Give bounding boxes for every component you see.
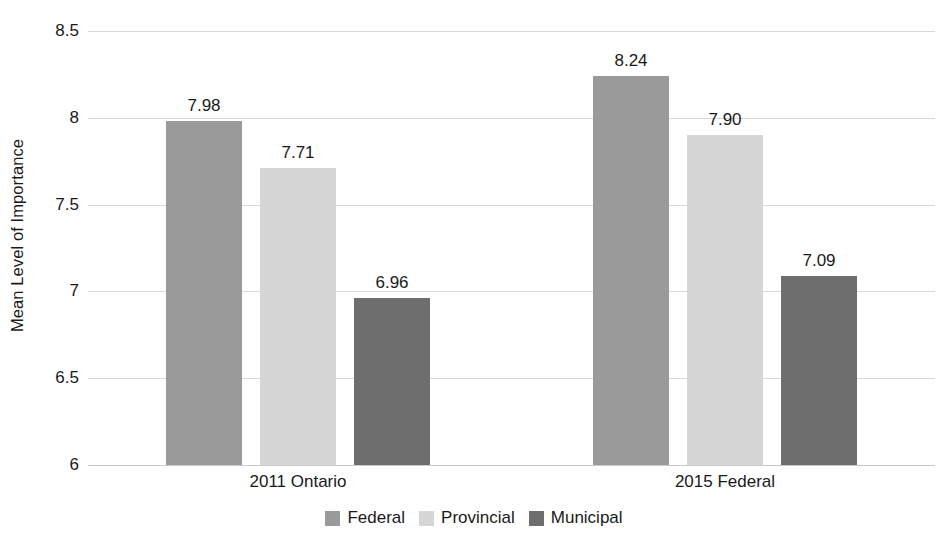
legend-swatch-icon	[529, 511, 544, 526]
legend-item-federal[interactable]: Federal	[325, 508, 405, 528]
bar-provincial-1: 7.71	[260, 168, 336, 465]
y-axis-title-text: Mean Level of Importance	[9, 138, 28, 331]
bar-value-label: 8.24	[614, 51, 647, 71]
legend-item-provincial[interactable]: Provincial	[419, 508, 515, 528]
legend-label: Provincial	[441, 508, 515, 528]
y-tick-label: 8.5	[55, 21, 79, 41]
y-tick-label: 7	[70, 281, 79, 301]
x-axis-label-1: 2011 Ontario	[249, 472, 346, 492]
legend-label: Municipal	[551, 508, 623, 528]
y-tick-label: 7.5	[55, 195, 79, 215]
bar-chart: Mean Level of Importance 66.577.588.57.9…	[0, 0, 948, 554]
gridline	[88, 465, 935, 466]
y-tick-label: 8	[70, 108, 79, 128]
x-axis-label-2: 2015 Federal	[675, 472, 775, 492]
legend-swatch-icon	[419, 511, 434, 526]
bar-federal-1: 7.98	[166, 121, 242, 465]
bar-provincial-2: 7.90	[687, 135, 763, 465]
gridline	[88, 31, 935, 32]
gridline	[88, 118, 935, 119]
bar-value-label: 7.98	[187, 96, 220, 116]
y-tick-label: 6	[70, 455, 79, 475]
legend-item-municipal[interactable]: Municipal	[529, 508, 623, 528]
legend-label: Federal	[347, 508, 405, 528]
bar-value-label: 7.90	[708, 110, 741, 130]
bar-value-label: 6.96	[375, 273, 408, 293]
plot-area: 66.577.588.57.987.716.968.247.907.09	[88, 31, 935, 465]
bar-value-label: 7.09	[802, 251, 835, 271]
y-tick-label: 6.5	[55, 368, 79, 388]
bar-federal-2: 8.24	[593, 76, 669, 465]
legend-swatch-icon	[325, 511, 340, 526]
bar-municipal-2: 7.09	[781, 276, 857, 465]
y-axis-title: Mean Level of Importance	[0, 0, 36, 470]
bar-value-label: 7.71	[281, 143, 314, 163]
bar-municipal-1: 6.96	[354, 298, 430, 465]
chart-legend: FederalProvincialMunicipal	[0, 508, 948, 528]
